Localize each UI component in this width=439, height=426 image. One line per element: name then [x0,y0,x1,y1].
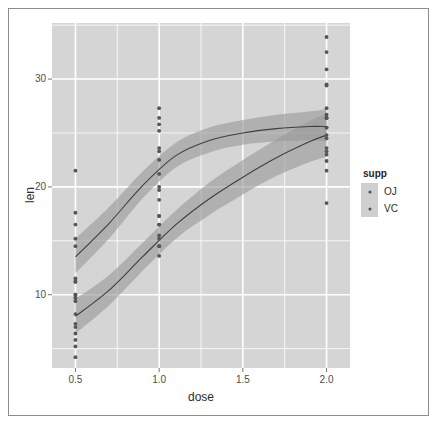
data-point [325,149,329,153]
data-point [325,169,329,173]
data-point [325,136,329,140]
legend-item-oj[interactable]: OJ [361,183,433,200]
data-point [74,277,78,281]
data-point [325,67,329,71]
data-point [325,113,329,117]
data-point [74,325,78,329]
legend-point-icon [368,207,371,210]
data-point [157,146,161,150]
legend: supp OJ VC [361,168,433,217]
data-point [74,345,78,349]
data-point [74,355,78,359]
data-point [157,185,161,189]
data-point [157,116,161,120]
data-point [157,106,161,110]
data-point [325,83,329,87]
data-point [325,126,329,130]
data-point [157,198,161,202]
data-point [74,332,78,336]
x-tick-label-1: 1.0 [148,374,170,385]
data-point [157,188,161,192]
data-point [325,116,329,120]
data-point [325,35,329,39]
legend-label-vc: VC [384,203,398,214]
data-point [325,146,329,150]
x-tick-label-2: 1.5 [232,374,254,385]
legend-key-oj [361,183,378,200]
legend-title: supp [363,168,433,179]
data-point [325,50,329,54]
data-point [157,223,161,227]
data-point [74,237,78,241]
y-tick-label-0: 10 [26,289,46,300]
data-point [157,149,161,153]
data-point [74,296,78,300]
data-point [74,322,78,326]
data-point [157,172,161,176]
data-point [74,223,78,227]
data-point [157,214,161,218]
data-point [157,254,161,258]
chart-root: 0.5 1.0 1.5 2.0 10 20 30 dose len supp O… [0,0,439,426]
x-tick-label-0: 0.5 [64,374,86,385]
data-point [325,133,329,137]
data-point [157,129,161,133]
data-point [157,237,161,241]
data-point [157,158,161,162]
x-tick-label-3: 2.0 [316,374,338,385]
data-point [325,159,329,163]
data-point [74,293,78,297]
data-point [74,211,78,215]
y-axis-title: len [23,165,37,225]
data-point [325,201,329,205]
data-point [157,244,161,248]
x-axis-title: dose [171,390,231,404]
legend-key-vc [361,200,378,217]
data-point [325,106,329,110]
legend-label-oj: OJ [384,186,397,197]
y-tick-label-2: 30 [26,73,46,84]
data-point [74,312,78,316]
data-point [74,169,78,173]
data-point [74,280,78,284]
data-point [157,233,161,237]
data-point [325,153,329,157]
data-point [74,338,78,342]
data-point [74,244,78,248]
legend-point-icon [368,190,371,193]
data-point [157,122,161,126]
legend-item-vc[interactable]: VC [361,200,433,217]
data-point [74,299,78,303]
